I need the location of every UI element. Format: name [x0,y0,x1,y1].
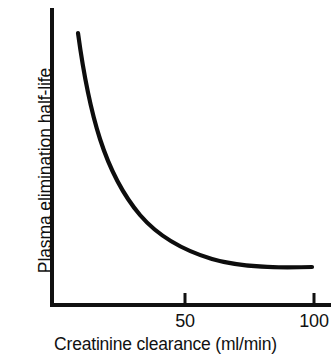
y-axis-title: Plasma elimination half-life [35,31,56,311]
x-axis-title: Creatinine clearance (ml/min) [0,334,331,355]
x-tick-label-100: 100 [299,311,328,332]
chart-figure: Plasma elimination half-life 50 100 Crea… [0,0,331,360]
x-tick-label-50: 50 [175,311,195,332]
